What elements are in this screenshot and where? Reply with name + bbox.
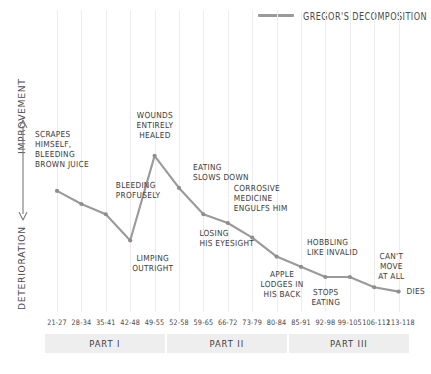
chart-annotation: EATING SLOWS DOWN	[193, 162, 249, 182]
chart-annotation: DIES	[407, 286, 425, 296]
data-point-marker	[226, 221, 230, 225]
plot-area: SCRAPES HIMSELF, BLEEDING BROWN JUICEBLE…	[45, 10, 417, 312]
data-point-marker	[104, 212, 108, 216]
part-band: PART II	[167, 334, 287, 353]
chart-annotation: LIMPING OUTRIGHT	[132, 253, 173, 273]
data-point-marker	[79, 202, 83, 206]
chart-annotation: CAN'T MOVE AT ALL	[378, 251, 404, 282]
data-point-marker	[348, 275, 352, 279]
chart-annotation: BLEEDING PROFUSELY	[116, 180, 161, 200]
part-band-label: PART III	[330, 338, 368, 349]
x-axis-tick-label: 49-55	[143, 318, 167, 327]
part-bands: PART IPART IIPART III	[45, 334, 420, 353]
x-axis-tick-label: 28-34	[69, 318, 93, 327]
x-axis-tick-label: 35-41	[94, 318, 118, 327]
x-axis-tick-label: 85-91	[289, 318, 313, 327]
chart-annotation: LOSING HIS EYESIGHT	[199, 228, 254, 248]
data-point-marker	[397, 290, 401, 294]
chart-annotation: CORROSIVE MEDICINE ENGULFS HIM	[234, 183, 288, 214]
double-headed-vertical-arrow-icon	[17, 118, 29, 222]
series-gregors-decomposition	[45, 10, 417, 312]
chart-annotation: SCRAPES HIMSELF, BLEEDING BROWN JUICE	[35, 129, 89, 170]
part-band-label: PART I	[89, 338, 120, 349]
data-point-marker	[153, 154, 157, 158]
chart-annotation: WOUNDS ENTIRELY HEALED	[137, 110, 174, 141]
x-axis-tick-label: 42-48	[118, 318, 142, 327]
data-point-marker	[177, 186, 181, 190]
data-point-marker	[128, 238, 132, 242]
x-axis-tick-label: 106-112	[362, 318, 386, 327]
x-axis-tick-label: 21-27	[45, 318, 69, 327]
x-axis-tick-label: 80-84	[265, 318, 289, 327]
part-band: PART III	[289, 334, 409, 353]
data-point-marker	[275, 254, 279, 258]
data-point-marker	[372, 285, 376, 289]
chart-annotation: APPLE LODGES IN HIS BACK	[261, 269, 304, 300]
x-axis-tick-label: 99-105	[338, 318, 362, 327]
chart-annotation: HOBBLING LIKE INVALID	[307, 237, 358, 257]
data-point-marker	[323, 275, 327, 279]
data-point-marker	[55, 189, 59, 193]
x-axis-tick-label: 73-79	[240, 318, 264, 327]
x-axis-tick-label: 113-118	[387, 318, 411, 327]
x-axis-tick-labels: 21-2728-3435-4142-4849-5552-5859-6566-72…	[45, 318, 420, 332]
part-band: PART I	[45, 334, 165, 353]
part-band-label: PART II	[210, 338, 244, 349]
y-axis: IMPROVEMENT DETERIORATION	[2, 22, 36, 310]
x-axis-tick-label: 92-98	[313, 318, 337, 327]
x-axis-tick-label: 52-58	[167, 318, 191, 327]
data-point-marker	[201, 212, 205, 216]
x-axis-tick-label: 66-72	[216, 318, 240, 327]
chart-annotation: STOPS EATING	[311, 287, 340, 307]
x-axis-tick-label: 59-65	[191, 318, 215, 327]
